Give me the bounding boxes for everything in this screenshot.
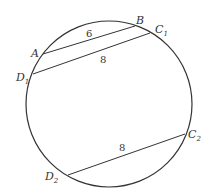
point-label-C2: C2 bbox=[188, 128, 201, 143]
length-label-D1C1: 8 bbox=[100, 54, 106, 65]
chord-D2C2 bbox=[68, 134, 185, 175]
point-label-C1: C1 bbox=[155, 23, 168, 38]
circle bbox=[26, 21, 192, 187]
point-label-D2: D2 bbox=[44, 170, 59, 185]
length-label-D2C2: 8 bbox=[119, 142, 125, 153]
point-label-A: A bbox=[30, 47, 39, 60]
length-label-AB: 6 bbox=[86, 28, 92, 39]
point-label-B: B bbox=[135, 14, 144, 27]
point-label-D1: D1 bbox=[15, 71, 29, 86]
circle-chords-diagram: 6 8 8 A B C1 D1 C2 D2 bbox=[0, 0, 217, 196]
